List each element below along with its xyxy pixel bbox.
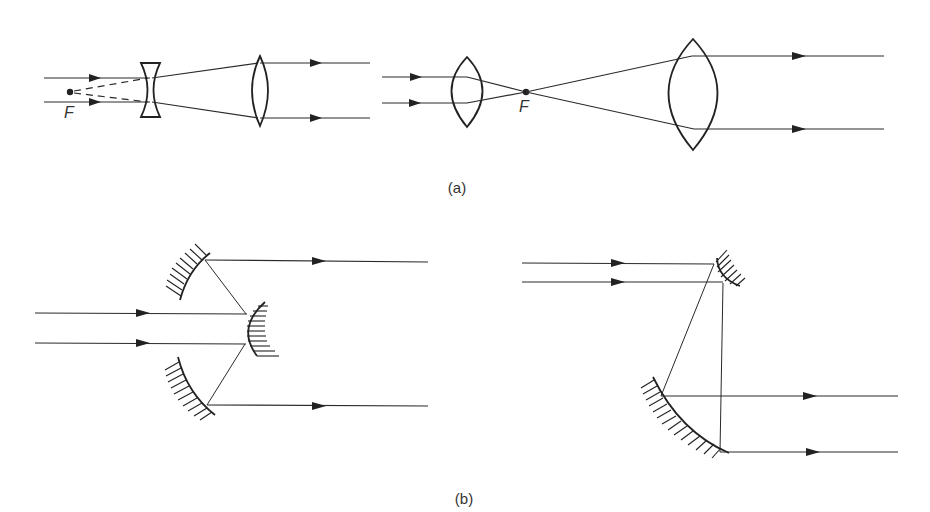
arrow-icon [312, 257, 326, 265]
focal-point-label-right: F [519, 98, 530, 115]
arrow-icon [136, 339, 150, 347]
small-converging-lens [452, 57, 483, 127]
diverging-ray-bottom [152, 102, 258, 118]
arrow-icon [310, 114, 322, 122]
keplerian-beam-expander [382, 39, 884, 150]
virtual-ray-top [74, 78, 148, 91]
diverging-lens [141, 63, 160, 117]
focal-point-marker [67, 89, 73, 95]
virtual-ray-bottom [74, 93, 148, 102]
diverging-ray-top [526, 56, 692, 92]
ray-to-focus-bottom [467, 92, 526, 103]
mirror-hatching [166, 244, 207, 296]
mirror-hatching [165, 362, 212, 420]
focal-point-label-left: F [64, 104, 75, 121]
converging-lens [252, 56, 268, 126]
reflected-ray-top [661, 264, 714, 396]
arrow-icon [89, 98, 101, 106]
cassegrain-reflective-expander [35, 244, 428, 420]
arrow-icon [410, 73, 422, 81]
reflected-ray-bottom [207, 344, 245, 405]
caption-a: (a) [448, 179, 466, 196]
arrow-icon [310, 59, 322, 67]
off-axis-reflective-expander [522, 250, 898, 458]
convex-secondary-mirror [248, 302, 265, 356]
caption-b: (b) [455, 490, 473, 507]
arrow-icon [136, 309, 150, 317]
reflected-ray-top [205, 260, 246, 314]
arrow-icon [611, 259, 625, 267]
ray-to-focus-top [467, 77, 526, 92]
diverging-ray-top [152, 63, 258, 78]
arrow-icon [89, 74, 101, 82]
optics-diagram: F F (a) [0, 0, 930, 512]
galilean-beam-expander [44, 56, 370, 126]
arrow-icon [806, 448, 820, 456]
arrow-icon [611, 278, 625, 286]
reflected-ray-bottom [720, 283, 723, 452]
arrow-icon [312, 402, 326, 410]
arrow-icon [803, 392, 817, 400]
arrow-icon [792, 52, 806, 60]
arrow-icon [792, 125, 806, 133]
arrow-icon [409, 99, 421, 107]
